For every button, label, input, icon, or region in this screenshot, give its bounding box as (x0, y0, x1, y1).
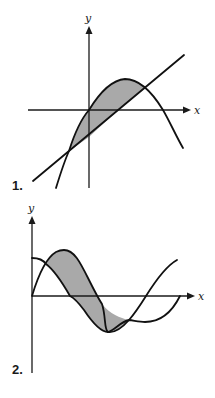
x-axis-arrow-1 (183, 107, 191, 114)
x-axis-label-2: x (198, 290, 205, 303)
figure-canvas: y x 1. y x 2. (0, 0, 215, 398)
figure-2: y x 2. (12, 202, 205, 377)
shaded-region-1 (69, 79, 145, 151)
figure-number-2: 2. (12, 362, 23, 377)
figure-1: y x 1. (12, 12, 201, 193)
y-axis-label-2: y (27, 202, 35, 215)
line-curve-1 (33, 55, 184, 181)
shaded-region-2 (46, 250, 129, 332)
x-axis-arrow-2 (187, 293, 195, 300)
y-axis-label-1: y (84, 12, 92, 25)
y-axis-arrow-1 (86, 26, 93, 34)
x-axis-label-1: x (194, 104, 201, 117)
y-axis-arrow-2 (29, 216, 36, 224)
figure-number-1: 1. (12, 178, 23, 193)
